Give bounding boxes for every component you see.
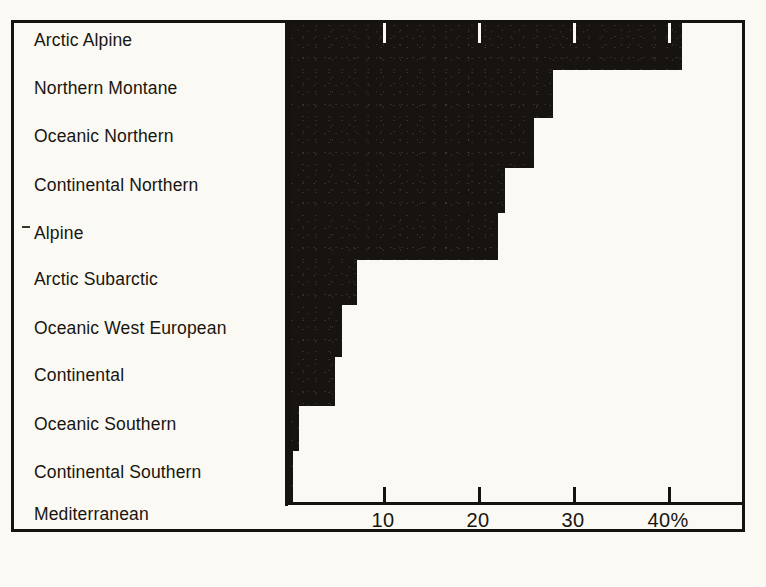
x-axis-tick-mark	[573, 487, 576, 502]
category-label: Oceanic Northern	[34, 128, 174, 146]
bar-oceanic-northern	[288, 118, 534, 168]
bar-arctic-subarctic	[288, 260, 357, 305]
category-label: Arctic Subarctic	[34, 271, 158, 289]
x-axis-tick-mark	[668, 487, 671, 502]
category-label: Continental Southern	[34, 464, 201, 482]
figure: Arctic AlpineNorthern MontaneOceanic Nor…	[0, 0, 766, 587]
bar-arctic-alpine	[288, 23, 682, 70]
bar-alpine	[288, 213, 498, 260]
bar-northern-montane	[288, 70, 553, 118]
x-axis-line	[288, 502, 742, 505]
category-label: Mediterranean	[34, 506, 149, 524]
category-label: Arctic Alpine	[34, 32, 132, 50]
x-axis-tick-label: 30	[562, 509, 585, 532]
category-label: Oceanic Southern	[34, 416, 177, 434]
category-label: Alpine	[34, 225, 84, 243]
x-axis-tick-label: 20	[467, 509, 490, 532]
x-axis-tick-mark	[383, 487, 386, 502]
category-label: Continental Northern	[34, 177, 198, 195]
category-label-panel: Arctic AlpineNorthern MontaneOceanic Nor…	[14, 23, 288, 506]
stray-mark	[22, 226, 30, 228]
plot-area	[288, 23, 742, 502]
y-axis-line	[288, 23, 291, 505]
category-label: Continental	[34, 367, 124, 385]
top-tick-mark	[383, 23, 386, 43]
bar-oceanic-west-european	[288, 305, 342, 357]
x-axis-tick-label: 10	[372, 509, 395, 532]
top-tick-mark	[478, 23, 481, 43]
category-label: Northern Montane	[34, 80, 177, 98]
x-axis-tick-mark	[478, 487, 481, 502]
top-tick-mark	[573, 23, 576, 43]
category-label: Oceanic West European	[34, 320, 227, 338]
x-axis-tick-label: 40%	[648, 509, 689, 532]
top-tick-mark	[668, 23, 671, 43]
bar-continental	[288, 357, 335, 406]
bar-continental-northern	[288, 168, 505, 213]
